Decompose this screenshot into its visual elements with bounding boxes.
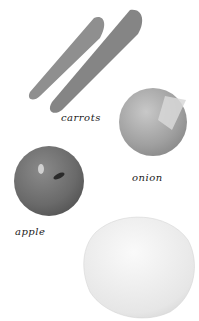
cabbage-image [84,217,195,318]
onion-label: onion [132,172,163,183]
carrots-label: carrots [61,112,101,123]
carrots-image [29,10,142,113]
apple-label: apple [15,226,45,237]
apple-image [14,146,84,216]
vegetables-illustration [0,0,199,321]
onion-image [119,88,187,156]
